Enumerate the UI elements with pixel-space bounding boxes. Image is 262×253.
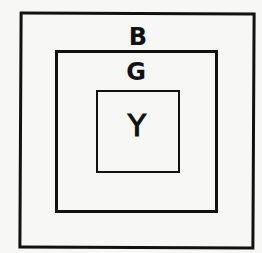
- label-b: B: [129, 25, 147, 49]
- label-y: Y: [128, 111, 146, 141]
- label-g: G: [126, 60, 146, 84]
